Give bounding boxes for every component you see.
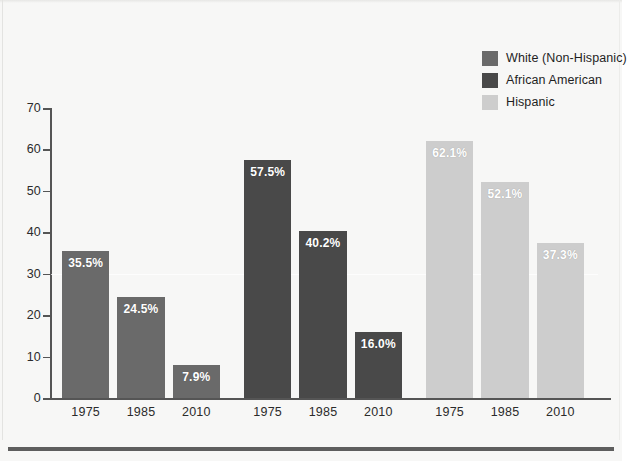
chart-legend: White (Non-Hispanic)African AmericanHisp… <box>482 48 627 114</box>
legend-item-label: Hispanic <box>506 95 555 109</box>
bar: 7.9% <box>173 365 220 398</box>
y-axis-tick-label: 70 <box>27 101 41 115</box>
bar: 57.5% <box>244 160 291 398</box>
legend-item-label: African American <box>506 73 602 87</box>
x-axis-tick-label: 2010 <box>537 405 584 419</box>
x-axis-tick-label: 1985 <box>117 405 164 419</box>
legend-item-label: White (Non-Hispanic) <box>506 51 627 65</box>
x-axis-tick-label: 1985 <box>299 405 346 419</box>
bar: 16.0% <box>355 332 402 398</box>
x-axis-tick-label: 1975 <box>426 405 473 419</box>
y-axis-tick <box>43 232 50 234</box>
bar: 24.5% <box>117 297 164 399</box>
plot-area: 010203040506070 35.5%24.5%7.9%57.5%40.2%… <box>50 108 598 398</box>
bar-value-label: 62.1% <box>426 146 473 160</box>
y-axis-tick <box>43 108 50 110</box>
bar-value-label: 40.2% <box>299 236 346 250</box>
page-bottom-rule <box>8 447 614 451</box>
legend-swatch-icon <box>482 73 498 88</box>
legend-item: African American <box>482 70 627 90</box>
x-axis-tick-label: 2010 <box>355 405 402 419</box>
x-axis-line <box>50 398 611 400</box>
bar: 62.1% <box>426 141 473 398</box>
page-left-edge <box>2 0 3 440</box>
y-axis-tick-label: 50 <box>27 184 41 198</box>
y-axis-tick <box>43 274 50 276</box>
bar-value-label: 52.1% <box>481 187 528 201</box>
y-axis-tick-label: 20 <box>27 308 41 322</box>
y-axis-tick-label: 30 <box>27 267 41 281</box>
y-axis-tick-label: 60 <box>27 142 41 156</box>
legend-item: White (Non-Hispanic) <box>482 48 627 68</box>
bar-value-label: 37.3% <box>537 248 584 262</box>
bar: 37.3% <box>537 243 584 398</box>
y-axis-tick <box>43 149 50 151</box>
bar-value-label: 57.5% <box>244 165 291 179</box>
y-axis-line <box>50 108 52 399</box>
bar: 35.5% <box>62 251 109 398</box>
y-axis-tick <box>43 357 50 359</box>
bar-value-label: 7.9% <box>173 370 220 384</box>
x-axis-tick-label: 1975 <box>244 405 291 419</box>
bar: 40.2% <box>299 231 346 398</box>
y-axis-tick <box>43 398 50 400</box>
x-axis-tick-label: 1975 <box>62 405 109 419</box>
y-axis-tick-label: 0 <box>34 391 41 405</box>
bar-value-label: 35.5% <box>62 256 109 270</box>
y-axis-tick-label: 40 <box>27 225 41 239</box>
x-axis-tick-label: 1985 <box>481 405 528 419</box>
y-axis-tick <box>43 315 50 317</box>
bar-value-label: 16.0% <box>355 337 402 351</box>
x-axis-tick-label: 2010 <box>173 405 220 419</box>
bar: 52.1% <box>481 182 528 398</box>
y-axis-tick-label: 10 <box>27 350 41 364</box>
page-top-edge <box>0 0 622 3</box>
legend-swatch-icon <box>482 51 498 66</box>
bar-value-label: 24.5% <box>117 302 164 316</box>
y-axis-tick <box>43 191 50 193</box>
